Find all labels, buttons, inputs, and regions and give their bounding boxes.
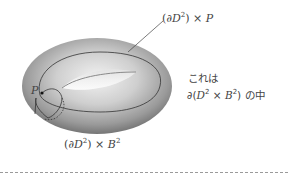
dashed-divider: [0, 172, 288, 173]
label-meridian: (∂D2) × B2: [64, 138, 120, 151]
leader-line: [128, 21, 163, 52]
note-line-2: ∂(D2 × B2) の中: [187, 87, 265, 102]
label-longitude: (∂D2) × P: [162, 12, 213, 25]
point-p: [40, 91, 43, 94]
label-point-p: P: [31, 84, 38, 97]
note-line-1: これは: [188, 70, 218, 85]
